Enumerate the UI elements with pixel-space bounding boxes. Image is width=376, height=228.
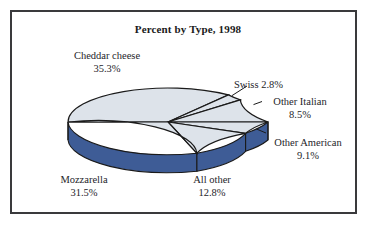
slice-label-value: 8.5%: [248, 109, 352, 122]
slice-label-all-other: All other 12.8%: [163, 174, 261, 200]
pie-chart-figure: Percent by Type, 1998 Chedda: [0, 0, 376, 228]
slice-label-value: 35.3%: [44, 63, 170, 76]
slice-label-mozzarella: Mozzarella 31.5%: [30, 174, 138, 200]
slice-label-name: Swiss: [234, 79, 259, 90]
slice-label-name: Other American: [252, 137, 364, 150]
slice-label-swiss: Swiss 2.8%: [234, 79, 283, 92]
slice-label-other-italian: Other Italian 8.5%: [248, 96, 352, 122]
slice-label-other-american: Other American 9.1%: [252, 137, 364, 163]
slice-label-cheddar-cheese: Cheddar cheese 35.3%: [44, 50, 170, 76]
slice-label-name: Cheddar cheese: [44, 50, 170, 63]
slice-label-name: All other: [163, 174, 261, 187]
slice-label-value: 31.5%: [30, 187, 138, 200]
slice-label-name: Other Italian: [248, 96, 352, 109]
slice-label-name: Mozzarella: [30, 174, 138, 187]
slice-label-value: 12.8%: [163, 187, 261, 200]
slice-label-value: 2.8%: [261, 79, 283, 90]
slice-label-value: 9.1%: [252, 150, 364, 163]
